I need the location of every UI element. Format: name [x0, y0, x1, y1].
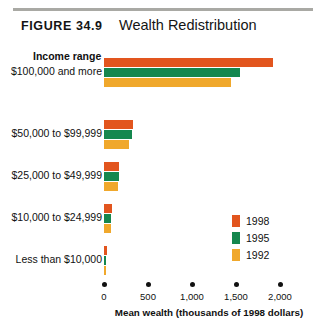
bar-1992: [104, 140, 129, 149]
axis-tick-label: 500: [140, 291, 156, 302]
bar-1992: [104, 266, 106, 275]
axis-tick-label: 0: [101, 291, 106, 302]
legend-swatch-icon: [232, 232, 240, 244]
bar-1995: [104, 214, 111, 223]
figure-number: FIGURE 34.9: [21, 19, 103, 33]
category-label: $10,000 to $24,999: [11, 212, 102, 223]
legend-item: 1995: [232, 231, 269, 245]
header-divider: [13, 8, 313, 11]
bar-1995: [104, 130, 132, 139]
figure-header: FIGURE 34.9 Wealth Redistribution: [0, 0, 324, 44]
axis-tick-label: 1,500: [224, 291, 248, 302]
legend-label: 1992: [246, 249, 269, 261]
legend-label: 1998: [246, 215, 269, 227]
category-axis-label: Income range: [33, 50, 101, 62]
axis-tick-dot: [146, 282, 151, 287]
bar-1995: [104, 256, 106, 265]
legend-item: 1992: [232, 248, 269, 262]
bar-1998: [104, 120, 133, 129]
bar-stack: [104, 246, 107, 275]
bar-stack: [104, 162, 119, 191]
bar-stack: [104, 204, 112, 233]
bar-stack: [104, 120, 133, 149]
bar-1995: [104, 68, 240, 77]
legend-swatch-icon: [232, 215, 240, 227]
axis-tick-label: 1,000: [180, 291, 204, 302]
chart-plot-area: Income range $100,000 and more$50,000 to…: [0, 44, 324, 333]
axis-tick-dot: [234, 282, 239, 287]
axis-tick-label: 2,000: [268, 291, 292, 302]
category-label: $50,000 to $99,999: [11, 128, 102, 139]
bar-stack: [104, 58, 273, 87]
bar-1998: [104, 162, 119, 171]
legend-item: 1998: [232, 214, 269, 228]
x-axis: Mean wealth (thousands of 1998 dollars) …: [0, 282, 324, 333]
legend-label: 1995: [246, 232, 269, 244]
bar-1992: [104, 224, 111, 233]
bar-1992: [104, 182, 118, 191]
axis-tick-dot: [190, 282, 195, 287]
chart-legend: 199819951992: [232, 214, 269, 265]
x-axis-title: Mean wealth (thousands of 1998 dollars): [104, 307, 314, 318]
figure-title: Wealth Redistribution: [119, 17, 257, 33]
category-label: $100,000 and more: [11, 66, 102, 77]
category-label: Less than $10,000: [16, 254, 102, 265]
legend-swatch-icon: [232, 249, 240, 261]
axis-tick-dot: [102, 282, 107, 287]
bar-1998: [104, 204, 112, 213]
bar-1998: [104, 246, 107, 255]
category-label: $25,000 to $49,999: [11, 170, 102, 181]
axis-tick-dot: [278, 282, 283, 287]
bar-1995: [104, 172, 119, 181]
bar-1998: [104, 58, 273, 67]
bar-1992: [104, 78, 231, 87]
